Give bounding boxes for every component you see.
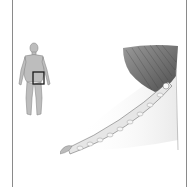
left-frame-line (12, 0, 13, 187)
right-frame-line (186, 0, 187, 187)
human-body-locator-icon (14, 40, 59, 120)
inguinal-anatomy-illustration (60, 40, 185, 160)
